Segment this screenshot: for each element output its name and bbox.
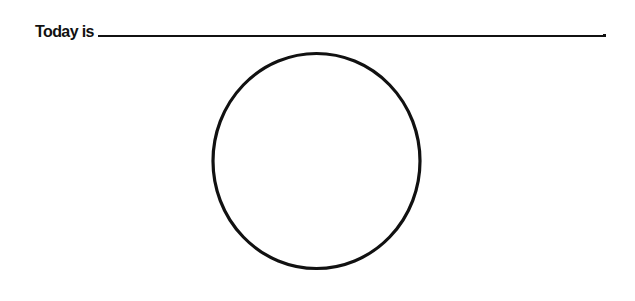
drawing-circle[interactable] xyxy=(0,0,635,301)
